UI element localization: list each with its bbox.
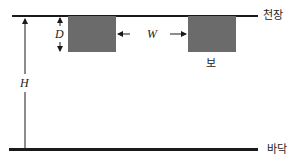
dimension-arrows xyxy=(0,0,293,166)
height-label: H xyxy=(19,77,30,89)
depth-label: D xyxy=(54,28,65,40)
width-label: W xyxy=(146,28,158,40)
